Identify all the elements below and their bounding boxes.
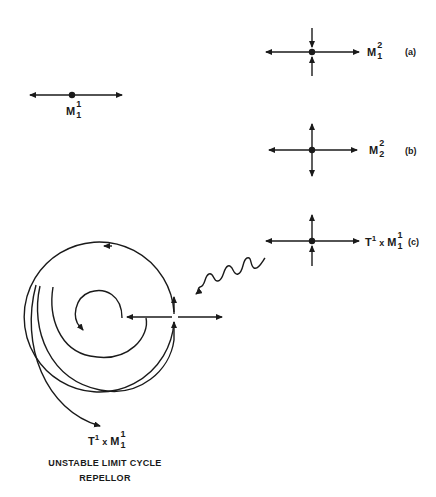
fixed-point-b (269, 124, 357, 176)
panel-tag-c: (c) (408, 238, 419, 247)
unstable-limit-cycle-spiral (24, 242, 222, 426)
fixed-point-c (266, 215, 359, 266)
manifold-m11-saddle (30, 93, 122, 98)
label-m11: M11 (66, 106, 82, 117)
caption-line-1: UNSTABLE LIMIT CYCLE (40, 459, 170, 468)
label-m22: M22 (369, 145, 385, 156)
phase-portrait-figure (0, 0, 436, 497)
label-t1xm11-spiral: T1 x M11 (88, 436, 127, 447)
fixed-point-a (266, 28, 359, 76)
panel-tag-b: (b) (405, 147, 417, 156)
label-t1xm11-c: T1 x M11 (365, 237, 404, 248)
wavy-perturbation-arrow (196, 258, 265, 294)
caption-line-2: REPELLOR (40, 474, 170, 483)
label-m12: M21 (367, 47, 383, 58)
panel-tag-a: (a) (405, 48, 416, 57)
